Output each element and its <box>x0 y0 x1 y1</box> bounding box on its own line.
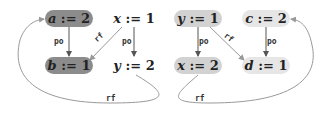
memory-model-diagram: a := 2x := 1b := 1y := 2y := 1c := 2x :=… <box>0 0 330 113</box>
node-value: 2 <box>146 58 155 73</box>
edge-label-rf: rf <box>106 94 116 103</box>
node-var: x <box>113 11 121 26</box>
node-a2: a := 2 <box>45 10 93 27</box>
node-x2: x := 2 <box>174 57 222 74</box>
node-value: 2 <box>210 58 219 73</box>
node-c2: c := 2 <box>242 10 290 27</box>
node-var: d <box>245 58 254 73</box>
rf-edge-x1-b <box>90 27 122 60</box>
node-var: x <box>177 58 185 73</box>
node-op: := <box>254 58 279 73</box>
node-value: 1 <box>81 58 90 73</box>
node-op: := <box>121 58 146 73</box>
node-x1: x := 1 <box>110 10 158 27</box>
node-d1: d := 1 <box>242 57 290 74</box>
node-var: a <box>48 11 56 26</box>
node-y2: y := 2 <box>110 57 158 74</box>
edge-label-po: po <box>267 37 277 46</box>
node-var: b <box>48 58 57 73</box>
node-op: := <box>121 11 146 26</box>
node-var: y <box>113 58 121 73</box>
node-value: 2 <box>81 11 90 26</box>
node-op: := <box>57 58 82 73</box>
node-op: := <box>185 58 210 73</box>
node-value: 2 <box>278 11 287 26</box>
node-var: c <box>245 11 253 26</box>
edge-label-po: po <box>54 37 64 46</box>
edge-label-po: po <box>199 37 209 46</box>
node-op: := <box>253 11 278 26</box>
node-value: 1 <box>146 11 155 26</box>
node-op: := <box>56 11 81 26</box>
node-value: 1 <box>278 58 287 73</box>
node-y1: y := 1 <box>174 10 222 27</box>
node-value: 1 <box>210 11 219 26</box>
node-op: := <box>185 11 210 26</box>
edge-label-po: po <box>122 37 132 46</box>
edge-label-rf: rf <box>195 94 205 103</box>
node-b1: b := 1 <box>45 57 93 74</box>
node-var: y <box>177 11 185 26</box>
